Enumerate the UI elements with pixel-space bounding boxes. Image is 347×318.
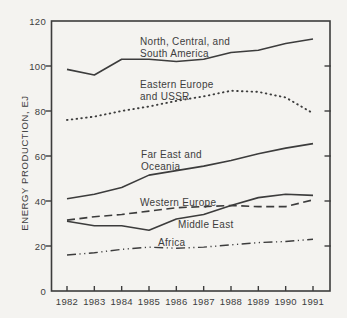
series-label-africa: Africa [158, 237, 185, 249]
x-tick-label: 1983 [79, 296, 109, 307]
x-tick-label: 1985 [134, 296, 164, 307]
series-label-far-east-oceania: Far East and Oceania [141, 149, 202, 174]
series-label-north-central-south-america: North, Central, and South America [140, 36, 230, 61]
series-label-middle-east: Middle East [178, 219, 234, 231]
x-tick-label: 1990 [271, 296, 301, 307]
y-axis-title: ENERGY PRODUCTION, EJ [19, 73, 31, 253]
y-tick-label: 20 [16, 241, 46, 252]
series-line-africa [67, 239, 313, 255]
y-tick-label: 60 [16, 151, 46, 162]
x-tick-label: 1982 [52, 296, 82, 307]
series-label-eastern-europe-ussr: Eastern Europe and USSR [140, 79, 214, 104]
x-tick-label: 1988 [216, 296, 246, 307]
y-tick-label: 80 [16, 106, 46, 117]
y-tick-label: 40 [16, 196, 46, 207]
series-label-western-europe: Western Europe [140, 197, 216, 209]
energy-production-figure: ENERGY PRODUCTION, EJ North, Central, an… [0, 0, 347, 318]
y-tick-label: 100 [16, 61, 46, 72]
x-tick-label: 1986 [161, 296, 191, 307]
x-tick-label: 1989 [243, 296, 273, 307]
y-tick-label: 0 [16, 286, 46, 297]
x-tick-label: 1987 [189, 296, 219, 307]
x-tick-label: 1991 [298, 296, 328, 307]
y-tick-label: 120 [16, 16, 46, 27]
x-tick-label: 1984 [107, 296, 137, 307]
